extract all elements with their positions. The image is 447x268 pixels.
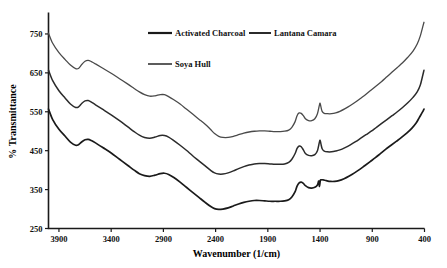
legend-label-lantana-camara: Lantana Camara [274, 28, 337, 38]
legend-group: Activated CharcoalLantana CamaraSoya Hul… [148, 28, 337, 69]
y-tick-label: 450 [30, 146, 43, 156]
y-tick-label: 550 [30, 107, 43, 117]
ftir-spectra-figure: 2503504505506507503900340029002400190014… [0, 0, 447, 268]
x-tick-label: 2400 [207, 234, 224, 244]
x-axis-title: Wavenumber (1/cm) [193, 248, 280, 260]
x-tick-label: 1400 [312, 234, 329, 244]
spectrum-line-activated-charcoal [49, 109, 424, 209]
x-tick-label: 1900 [259, 234, 276, 244]
y-tick-label: 750 [30, 29, 43, 39]
series-group [49, 22, 424, 209]
axis-group: 2503504505506507503900340029002400190014… [30, 13, 431, 244]
x-tick-label: 900 [366, 234, 379, 244]
legend-label-soya-hull: Soya Hull [175, 59, 211, 69]
axis-lines [49, 13, 425, 229]
y-tick-label: 250 [30, 224, 43, 234]
spectrum-line-lantana-camara [49, 70, 424, 174]
x-tick-label: 2900 [155, 234, 172, 244]
chart-canvas: 2503504505506507503900340029002400190014… [0, 0, 447, 268]
legend-label-activated-charcoal: Activated Charcoal [175, 28, 246, 38]
y-tick-label: 350 [30, 185, 43, 195]
x-tick-label: 3400 [103, 234, 120, 244]
y-tick-label: 650 [30, 68, 43, 78]
x-tick-label: 3900 [50, 234, 67, 244]
x-tick-label: 400 [418, 234, 431, 244]
spectrum-line-soya-hull [49, 22, 424, 137]
y-axis-title: % Transmittance [7, 84, 18, 159]
